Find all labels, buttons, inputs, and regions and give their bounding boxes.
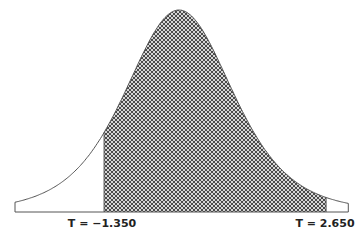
- right-t-label: T = 2.650: [295, 217, 354, 230]
- shaded-area: [104, 10, 326, 212]
- left-t-label: T = −1.350: [68, 217, 136, 230]
- t-distribution-chart: [0, 0, 359, 238]
